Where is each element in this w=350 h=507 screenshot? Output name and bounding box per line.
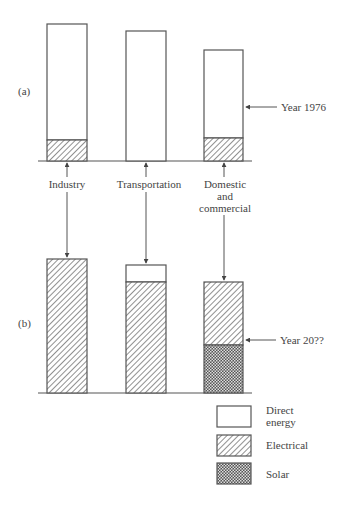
legend-swatch-solar xyxy=(217,463,251,484)
legend-electrical: Electrical xyxy=(266,439,308,451)
bar-b-industry xyxy=(47,259,87,393)
panel-b: (b) Year 20?? xyxy=(18,259,324,393)
year-label-b: Year 20?? xyxy=(280,334,324,346)
bar-b-domestic xyxy=(204,282,243,393)
category-domestic-line1: Domestic xyxy=(204,178,246,190)
year-label-a: Year 1976 xyxy=(281,101,327,113)
panel-a: (a) Year 1976 xyxy=(18,24,327,161)
category-domestic-line2: and xyxy=(217,190,233,202)
panel-a-label: (a) xyxy=(18,85,31,98)
legend-solar: Solar xyxy=(266,468,290,480)
legend-direct-line1: Direct xyxy=(266,404,293,416)
category-domestic-line3: commercial xyxy=(199,202,251,214)
bar-a-industry xyxy=(47,24,87,161)
legend-swatch-electrical xyxy=(217,435,251,456)
category-transportation: Transportation xyxy=(117,178,182,190)
bar-a-transportation xyxy=(126,31,166,161)
energy-use-diagram: (a) Year 1976 Industry Transportation Do… xyxy=(0,0,350,507)
category-industry: Industry xyxy=(49,178,86,190)
panel-b-label: (b) xyxy=(18,317,31,330)
legend: Direct energy Electrical Solar xyxy=(217,404,308,484)
bar-a-domestic xyxy=(204,50,243,161)
bar-b-transportation xyxy=(126,265,166,393)
legend-direct-line2: energy xyxy=(266,416,296,428)
legend-swatch-direct xyxy=(217,406,251,427)
